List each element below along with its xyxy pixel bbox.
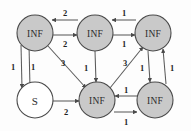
graph-edge [29,45,30,88]
graph-node-n5[interactable]: INF [137,82,173,118]
edge-weight-label: 2 [63,8,67,18]
edge-weight-label: 1 [170,63,174,73]
graph-node-n3[interactable]: S [17,82,53,118]
edge-weight-label: 1 [11,62,15,72]
graph-node-n2[interactable]: INF [135,15,171,51]
graph-canvas: INFINFINFSINFINF 22111131321111 [0,0,191,131]
edge-weight-label: 1 [122,8,126,18]
edge-weight-label: 3 [61,58,65,68]
node-label: INF [145,29,161,39]
edge-weight-label: 1 [140,63,144,73]
edge-weight-label: 2 [63,39,67,49]
graph-diagram: INFINFINFSINFINF 22111131321111 [0,0,191,131]
graph-edge [95,51,96,82]
edge-weight-label: 1 [31,62,35,72]
graph-node-n4[interactable]: INF [79,82,115,118]
edge-weight-label: 1 [122,39,126,49]
edge-weight-label: 3 [123,58,127,68]
graph-node-n0[interactable]: INF [17,15,53,51]
graph-edge [163,49,166,84]
graph-node-n1[interactable]: INF [77,15,113,51]
node-label: INF [27,29,43,39]
node-label: INF [89,96,105,106]
node-label: S [32,95,38,107]
graph-edge [21,45,22,88]
edge-weight-label: 2 [64,107,68,117]
node-label: INF [87,29,103,39]
graph-edge [148,51,150,82]
edge-weight-label: 1 [124,117,128,127]
edge-weight-label: 1 [84,63,88,73]
edge-weight-label: 1 [124,85,128,95]
node-label: INF [147,96,163,106]
graph-edge [48,46,86,88]
